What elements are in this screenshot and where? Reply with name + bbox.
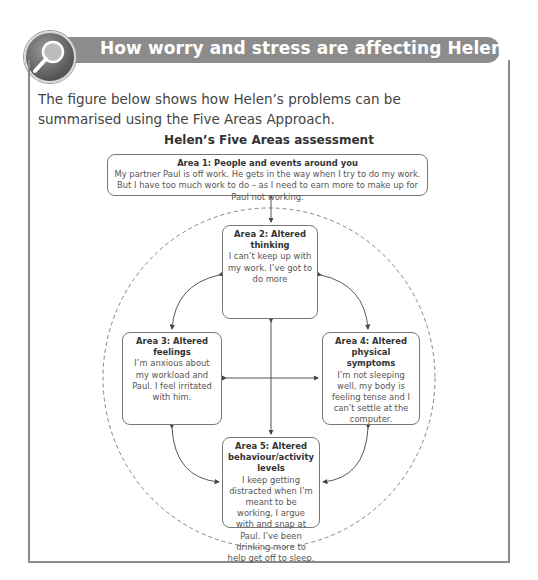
area-5-box: Area 5: Altered behaviour/activity level… xyxy=(222,437,320,528)
area-1-box: Area 1: People and events around you My … xyxy=(107,154,428,196)
area-5-text: I keep getting distracted when I’m meant… xyxy=(228,475,315,563)
area-3-heading: Area 3: Altered feelings xyxy=(127,336,217,358)
area-2-text: I can’t keep up with my work. I’ve got t… xyxy=(228,251,312,283)
area-3-box: Area 3: Altered feelings I’m anxious abo… xyxy=(122,332,222,425)
area-1-heading: Area 1: People and events around you xyxy=(112,158,423,169)
area-2-box: Area 2: Altered thinking I can’t keep up… xyxy=(222,225,318,319)
area-2-heading: Area 2: Altered thinking xyxy=(227,229,313,251)
area-1-text: My partner Paul is off work. He gets in … xyxy=(114,169,420,201)
area-4-text: I’m not sleeping well, my body is feelin… xyxy=(332,370,410,425)
area-4-box: Area 4: Altered physical symptoms I’m no… xyxy=(322,332,420,425)
area-3-text: I’m anxious about my workload and Paul. … xyxy=(132,358,212,402)
area-4-heading: Area 4: Altered physical symptoms xyxy=(327,336,415,370)
area-5-heading: Area 5: Altered behaviour/activity level… xyxy=(227,441,315,475)
